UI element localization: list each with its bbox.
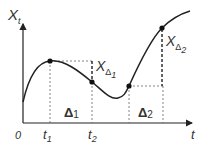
process-curve (23, 11, 190, 102)
y-axis-label: Xt (7, 6, 21, 26)
origin-label: 0 (15, 129, 22, 141)
x-axis-label: t (191, 127, 196, 142)
tick-label-t1: t1 (43, 127, 52, 144)
tick-label-t2: t2 (88, 127, 97, 144)
point-t2 (89, 79, 94, 84)
point-s1 (126, 83, 131, 88)
increment-label-2: XΔ2 (165, 33, 186, 55)
point-s2 (159, 25, 164, 30)
increment-label-1: XΔ1 (95, 58, 116, 80)
interval-label-1: Δ1 (64, 105, 79, 120)
process-diagram: Xt XΔ1 XΔ2 Δ1 Δ2 0 t1 t2 t (0, 0, 201, 153)
point-t1 (47, 58, 52, 63)
interval-label-2: Δ2 (138, 105, 153, 120)
